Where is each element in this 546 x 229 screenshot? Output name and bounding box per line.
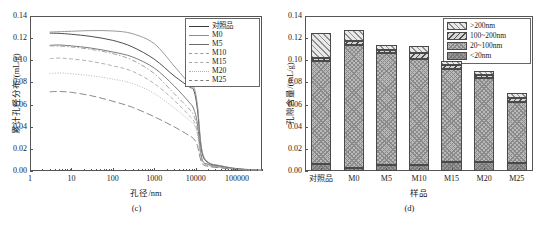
legend-line-key-icon [189, 49, 209, 57]
bar-stack-M25 [507, 16, 527, 171]
x-tick-c [30, 168, 31, 171]
y-tick-label-d: 0.04 [288, 123, 302, 131]
panel-cumulative-pore-distribution: 累计孔径分布/(mL/g) 孔径/nm (c) 对照品M0M5M10M15M20… [0, 0, 273, 229]
legend-line-key-icon [189, 67, 209, 75]
panel-pore-volume-bars: 孔隙含量/(mL/g) 样品 (d) >200nm100~200nm20~100… [273, 0, 546, 229]
legend-line-key-icon [189, 76, 209, 84]
y-tick-label-d: 0.08 [288, 78, 302, 86]
y-tick-d [305, 127, 308, 128]
y-tick-c [30, 127, 33, 128]
legend-label: M0 [212, 31, 222, 39]
x-minor-tick-c [192, 169, 193, 171]
bar-segment-100~200nm [441, 65, 461, 68]
y-tick-c [30, 16, 33, 17]
x-tick-label-d: M25 [497, 175, 537, 183]
x-tick-label-c: 1000 [134, 175, 174, 183]
x-minor-tick-c [65, 169, 66, 171]
x-minor-tick-c [152, 169, 153, 171]
x-minor-tick-c [145, 169, 146, 171]
x-tick-c [113, 168, 114, 171]
y-tick-label-d: 0.14 [288, 12, 302, 20]
curve-M25 [50, 91, 262, 170]
bar-segment->200nm [507, 93, 527, 99]
x-minor-tick-c [96, 169, 97, 171]
y-tick-label-d: 0.10 [288, 56, 302, 64]
y-tick-label-c: 0.10 [13, 56, 27, 64]
bar-segment->200nm [376, 45, 396, 50]
x-tick-d [354, 168, 355, 171]
x-minor-tick-c [228, 169, 229, 171]
bar-stack-M0 [344, 16, 364, 171]
legend-label: M15 [212, 58, 226, 66]
bar-stack-对照品 [311, 16, 331, 171]
bar-segment-20~100nm [507, 102, 527, 162]
legend-line-key-icon [189, 31, 209, 39]
x-minor-tick-c [91, 169, 92, 171]
x-minor-tick-c [142, 169, 143, 171]
legend-label: M5 [212, 40, 222, 48]
y-tick-c [30, 149, 33, 150]
x-minor-tick-c [59, 169, 60, 171]
x-minor-tick-c [50, 169, 51, 171]
x-minor-tick-c [106, 169, 107, 171]
x-minor-tick-c [67, 169, 68, 171]
y-tick-d [305, 16, 308, 17]
bar-segment-100~200nm [311, 58, 331, 61]
x-minor-tick-c [174, 169, 175, 171]
legend-c: 对照品M0M5M10M15M20M25 [185, 18, 260, 87]
curve-M20 [50, 73, 262, 171]
x-minor-tick-c [179, 169, 180, 171]
legend-label: M25 [212, 76, 226, 84]
bar-segment-100~200nm [344, 41, 364, 45]
figure-container: 累计孔径分布/(mL/g) 孔径/nm (c) 对照品M0M5M10M15M20… [0, 0, 546, 229]
y-tick-label-c: 0.08 [13, 78, 27, 86]
bar-segment-20~100nm [311, 61, 331, 164]
x-minor-tick-c [111, 169, 112, 171]
y-tick-d [305, 171, 308, 172]
y-tick-label-d: 0.06 [288, 101, 302, 109]
y-tick-d [305, 149, 308, 150]
legend-label: M20 [212, 67, 226, 75]
legend-row-M5: M5 [189, 39, 256, 48]
x-minor-tick-c [231, 169, 232, 171]
x-tick-c [196, 168, 197, 171]
legend-row-M15: M15 [189, 57, 256, 66]
x-minor-tick-c [250, 169, 251, 171]
x-minor-tick-c [183, 169, 184, 171]
x-minor-tick-c [42, 169, 43, 171]
x-minor-tick-c [208, 169, 209, 171]
x-minor-tick-c [100, 169, 101, 171]
x-minor-tick-c [235, 169, 236, 171]
x-tick-c [237, 168, 238, 171]
y-tick-c [30, 60, 33, 61]
y-tick-c [30, 105, 33, 106]
x-tick-c [154, 168, 155, 171]
bar-stack-M10 [409, 16, 429, 171]
x-minor-tick-c [138, 169, 139, 171]
legend-label: 对照品 [212, 22, 233, 30]
panel-caption-d: (d) [273, 204, 546, 213]
bar-segment-100~200nm [376, 50, 396, 53]
y-tick-label-c: 0.14 [13, 12, 27, 20]
x-minor-tick-c [55, 169, 56, 171]
x-minor-tick-c [257, 169, 258, 171]
x-tick-d [484, 168, 485, 171]
x-tick-label-c: 10000 [176, 175, 216, 183]
x-minor-tick-c [167, 169, 168, 171]
x-minor-tick-c [194, 169, 195, 171]
bar-segment-20~100nm [409, 59, 429, 165]
legend-line-key-icon [189, 22, 209, 30]
y-tick-c [30, 38, 33, 39]
legend-label: M10 [212, 49, 226, 57]
x-tick-c [71, 168, 72, 171]
legend-row-M25: M25 [189, 75, 256, 84]
x-minor-tick-c [225, 169, 226, 171]
legend-row-M0: M0 [189, 30, 256, 39]
x-tick-d [517, 168, 518, 171]
legend-line-key-icon [189, 58, 209, 66]
y-tick-label-c: 0.04 [13, 123, 27, 131]
bar-segment-20~100nm [441, 69, 461, 163]
y-tick-c [30, 82, 33, 83]
legend-line-key-icon [189, 40, 209, 48]
legend-row-M10: M10 [189, 48, 256, 57]
